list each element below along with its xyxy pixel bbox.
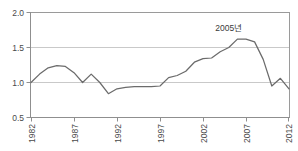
- y-axis-label-0-5: 0.5: [12, 113, 24, 123]
- y-axis-label-1-5: 1.5: [12, 43, 24, 53]
- chart-canvas: 2.0 1.5 1.0 0.5 1982 1987 1992 1997 2002…: [0, 0, 298, 151]
- x-axis-labels: 1982 1987 1992 1997 2002 2007 2012: [27, 124, 294, 143]
- x-axis-label-1997: 1997: [156, 124, 166, 143]
- x-axis-label-2007: 2007: [242, 124, 252, 143]
- y-axis: [27, 12, 31, 118]
- x-axis: [31, 118, 290, 122]
- x-axis-label-1987: 1987: [70, 124, 80, 143]
- y-axis-label-2-0: 2.0: [12, 8, 24, 18]
- y-axis-labels: 2.0 1.5 1.0 0.5: [12, 8, 24, 123]
- x-axis-label-2002: 2002: [199, 124, 209, 143]
- gridlines: [31, 48, 289, 83]
- line-chart: 2.0 1.5 1.0 0.5 1982 1987 1992 1997 2002…: [0, 0, 298, 151]
- x-axis-label-2012: 2012: [284, 124, 294, 143]
- x-axis-label-1982: 1982: [27, 124, 37, 143]
- y-axis-label-1-0: 1.0: [12, 78, 24, 88]
- annotation-peak-2005: 2005년: [215, 23, 242, 33]
- plot-area-border: [31, 13, 290, 118]
- x-axis-label-1992: 1992: [113, 124, 123, 143]
